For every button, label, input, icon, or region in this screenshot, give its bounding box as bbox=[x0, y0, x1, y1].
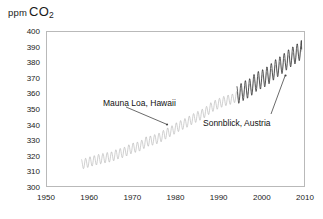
x-tick-mark bbox=[133, 186, 134, 187]
x-tick-minor bbox=[56, 186, 57, 187]
x-tick-minor bbox=[237, 186, 238, 187]
x-tick-minor bbox=[73, 186, 74, 187]
x-tick-minor bbox=[185, 186, 186, 187]
x-tick-minor bbox=[116, 186, 117, 187]
x-tick-minor bbox=[133, 186, 134, 187]
x-tick-label: 2010 bbox=[296, 193, 314, 202]
x-tick-mark bbox=[263, 186, 264, 187]
data-series-layer bbox=[47, 32, 305, 187]
x-tick-minor bbox=[220, 186, 221, 187]
x-tick-minor bbox=[107, 186, 108, 187]
x-tick-mark bbox=[177, 186, 178, 187]
co2-concentration-chart: ppmCO2 300310320330340350360370380390400… bbox=[0, 0, 323, 219]
y-tick-label: 400 bbox=[0, 27, 40, 36]
x-tick-label: 1950 bbox=[37, 193, 55, 202]
x-tick-minor bbox=[82, 186, 83, 187]
y-tick-label: 310 bbox=[0, 167, 40, 176]
y-tick-label: 300 bbox=[0, 183, 40, 192]
x-tick-label: 1980 bbox=[167, 193, 185, 202]
y-tick-label: 340 bbox=[0, 120, 40, 129]
x-tick-minor bbox=[289, 186, 290, 187]
y-tick-label: 380 bbox=[0, 58, 40, 67]
x-tick-minor bbox=[280, 186, 281, 187]
x-tick-label: 1970 bbox=[123, 193, 141, 202]
x-tick-minor bbox=[297, 186, 298, 187]
y-tick-label: 360 bbox=[0, 89, 40, 98]
x-tick-label: 1960 bbox=[80, 193, 98, 202]
x-tick-minor bbox=[125, 186, 126, 187]
x-tick-minor bbox=[263, 186, 264, 187]
x-tick-minor bbox=[228, 186, 229, 187]
x-tick-minor bbox=[211, 186, 212, 187]
x-tick-minor bbox=[47, 186, 48, 187]
x-tick-minor bbox=[271, 186, 272, 187]
x-tick-mark bbox=[90, 186, 91, 187]
x-tick-minor bbox=[151, 186, 152, 187]
x-tick-minor bbox=[168, 186, 169, 187]
series-line-sonnblick bbox=[237, 40, 302, 103]
x-tick-minor bbox=[159, 186, 160, 187]
x-tick-mark bbox=[47, 186, 48, 187]
x-tick-minor bbox=[202, 186, 203, 187]
y-tick-label: 330 bbox=[0, 136, 40, 145]
y-tick-label: 370 bbox=[0, 73, 40, 82]
y-axis-unit-label: ppm bbox=[8, 7, 27, 18]
x-tick-minor bbox=[64, 186, 65, 187]
x-tick-mark bbox=[220, 186, 221, 187]
annotation-mauna-loa: Mauna Loa, Hawaii bbox=[103, 98, 176, 108]
x-tick-label: 1990 bbox=[210, 193, 228, 202]
annotation-sonnblick: Sonnblick, Austria bbox=[203, 118, 271, 128]
y-axis-title: ppmCO2 bbox=[8, 2, 54, 20]
y-axis-species-label: CO2 bbox=[29, 4, 54, 19]
x-tick-minor bbox=[90, 186, 91, 187]
x-tick-minor bbox=[194, 186, 195, 187]
x-tick-minor bbox=[142, 186, 143, 187]
x-tick-minor bbox=[177, 186, 178, 187]
y-tick-label: 320 bbox=[0, 151, 40, 160]
x-tick-minor bbox=[99, 186, 100, 187]
plot-area bbox=[46, 31, 305, 187]
x-tick-minor bbox=[246, 186, 247, 187]
x-tick-label: 2000 bbox=[253, 193, 271, 202]
x-tick-minor bbox=[254, 186, 255, 187]
y-tick-label: 350 bbox=[0, 105, 40, 114]
y-tick-label: 390 bbox=[0, 42, 40, 51]
